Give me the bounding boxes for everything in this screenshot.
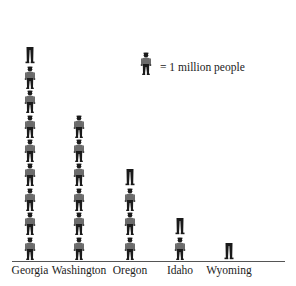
category-label: Georgia (12, 264, 49, 276)
person-icon (71, 237, 87, 261)
person-icon (22, 163, 38, 187)
person-icon (122, 212, 138, 236)
person-icon (22, 188, 38, 212)
person-icon (71, 212, 87, 236)
category-label: Wyoming (206, 264, 251, 276)
person-icon (71, 139, 87, 163)
half-person-icon (22, 41, 38, 65)
column-idaho (172, 212, 188, 261)
column-oregon (122, 163, 138, 261)
person-icon (71, 188, 87, 212)
person-icon (22, 237, 38, 261)
column-wyoming (221, 237, 237, 261)
person-icon (22, 66, 38, 90)
person-icon (22, 90, 38, 114)
legend-text: = 1 million people (160, 61, 245, 73)
person-icon (71, 163, 87, 187)
person-icon (22, 212, 38, 236)
baseline-axis (12, 261, 285, 262)
category-label: Idaho (167, 264, 193, 276)
column-georgia (22, 41, 38, 261)
half-person-icon (122, 163, 138, 187)
legend: = 1 million people (138, 52, 245, 78)
category-label: Washington (52, 264, 107, 276)
person-icon (22, 115, 38, 139)
half-person-icon (221, 237, 237, 261)
person-icon (138, 52, 154, 78)
category-label: Oregon (113, 264, 148, 276)
person-icon (172, 237, 188, 261)
half-person-icon (172, 212, 188, 236)
pictograph-chart: = 1 million people (0, 0, 296, 286)
person-icon (122, 237, 138, 261)
column-washington (71, 115, 87, 261)
person-icon (122, 188, 138, 212)
person-icon (22, 139, 38, 163)
person-icon (71, 115, 87, 139)
